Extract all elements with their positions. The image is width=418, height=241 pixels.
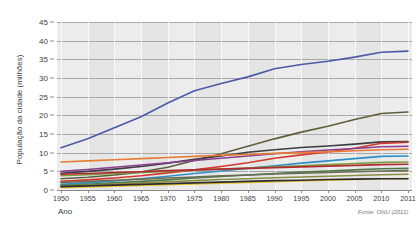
x-axis-tick-mark — [248, 190, 249, 193]
y-axis-tick-label: 5 — [44, 167, 48, 176]
y-axis-tick-mark — [50, 171, 54, 172]
x-axis-tick-mark — [61, 190, 62, 193]
y-axis-ticks: 051015202530354045 — [0, 0, 57, 200]
x-axis-tick-mark — [141, 190, 142, 193]
y-axis-tick-mark — [50, 78, 54, 79]
y-axis-title: População da cidade (milhões) — [15, 35, 24, 185]
x-axis-tick-mark — [221, 190, 222, 193]
x-axis-tick-mark — [88, 190, 89, 193]
x-axis-tick-mark — [301, 190, 302, 193]
y-axis-tick-mark — [50, 152, 54, 153]
x-axis-tick-mark — [381, 190, 382, 193]
y-axis-tick-label: 45 — [39, 18, 48, 27]
y-axis-tick-mark — [50, 134, 54, 135]
x-axis-tick-label: 1975 — [186, 194, 202, 203]
x-axis-tick-label: 1995 — [293, 194, 309, 203]
x-axis-tick-label: 1970 — [160, 194, 176, 203]
y-axis-tick-label: 25 — [39, 92, 48, 101]
x-axis-tick-label: 1985 — [240, 194, 256, 203]
x-axis-tick-label: 2000 — [320, 194, 336, 203]
y-axis-tick-mark — [50, 59, 54, 60]
y-axis-tick-label: 40 — [39, 36, 48, 45]
x-axis-tick-label: 2005 — [347, 194, 363, 203]
x-axis-tick-mark — [408, 190, 409, 193]
x-axis-tick-label: 1960 — [106, 194, 122, 203]
x-axis-tick-label: 2010 — [373, 194, 389, 203]
y-axis-tick-label: 15 — [39, 130, 48, 139]
x-axis-tick-mark — [275, 190, 276, 193]
chart-figure: Crescimento populacional das cidades, 19… — [0, 0, 418, 241]
series-line — [61, 149, 408, 162]
series-line — [61, 51, 408, 148]
series-lines — [57, 22, 412, 190]
x-axis-tick-label: 1980 — [213, 194, 229, 203]
x-axis-tick-label: 1955 — [80, 194, 96, 203]
y-axis-tick-label: 10 — [39, 148, 48, 157]
plot-area — [57, 22, 412, 190]
x-axis-tick-label: 1965 — [133, 194, 149, 203]
y-axis-tick-label: 30 — [39, 74, 48, 83]
y-axis-tick-mark — [50, 96, 54, 97]
y-axis-tick-label: 20 — [39, 111, 48, 120]
y-axis-tick-label: 35 — [39, 55, 48, 64]
y-axis-tick-mark — [50, 40, 54, 41]
y-axis-tick-mark — [50, 115, 54, 116]
x-axis-tick-label: 1950 — [53, 194, 69, 203]
x-axis-tick-mark — [328, 190, 329, 193]
x-axis-tick-mark — [194, 190, 195, 193]
x-axis-tick-mark — [355, 190, 356, 193]
x-axis-title: Ano — [58, 207, 72, 216]
source-note: Fonte: ONU (2011). — [358, 209, 410, 215]
y-axis-tick-mark — [50, 22, 54, 23]
x-axis-tick-label: 1990 — [267, 194, 283, 203]
x-axis-tick-mark — [168, 190, 169, 193]
x-axis-tick-label: 2011 — [400, 194, 415, 203]
x-axis-tick-mark — [114, 190, 115, 193]
